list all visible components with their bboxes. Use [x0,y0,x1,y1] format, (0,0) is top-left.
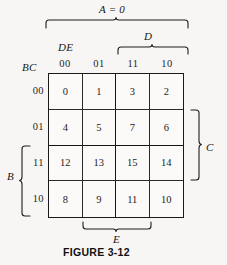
row-header-0: 00 [22,73,44,109]
label-de: DE [58,41,73,53]
kmap-cell: 3 [116,74,150,110]
kmap-cell-value: 7 [130,122,135,133]
kmap-cell-value: 5 [96,122,101,133]
kmap-cell: 6 [150,110,184,146]
kmap-cell: 1 [83,74,117,110]
kmap-grid: 0 1 3 2 4 5 7 6 12 13 15 14 8 9 11 10 [48,73,184,218]
kmap-cell-value: 14 [161,157,172,168]
kmap-cell-value: 15 [127,157,138,168]
kmap-cell-value: 9 [96,194,101,205]
column-header-0: 00 [48,58,82,69]
karnaugh-map-figure: A = 0 D DE BC 00 01 11 10 00 01 11 10 0 … [0,0,227,265]
label-d: D [144,30,152,42]
bracket-top-d [117,44,189,55]
figure-caption: FIGURE 3-12 [63,246,130,258]
kmap-cell: 4 [49,110,83,146]
kmap-cell: 11 [116,181,150,217]
kmap-cell-value: 8 [63,194,68,205]
kmap-cell: 5 [83,110,117,146]
bracket-top-a [45,17,189,29]
kmap-cell: 14 [150,146,184,182]
bracket-bottom-e [82,221,152,232]
kmap-cell: 9 [83,181,117,217]
kmap-cell-value: 11 [127,194,137,205]
label-e: E [113,233,120,245]
kmap-cell-value: 4 [63,122,68,133]
kmap-cell-value: 1 [96,86,101,97]
kmap-cell: 0 [49,74,83,110]
kmap-cell: 7 [116,110,150,146]
kmap-cell-value: 3 [130,86,135,97]
kmap-cell-value: 2 [164,86,169,97]
column-header-2: 11 [116,58,150,69]
kmap-cell-value: 13 [94,157,105,168]
bracket-left-b [19,145,31,217]
kmap-cell: 13 [83,146,117,182]
column-header-3: 10 [150,58,184,69]
kmap-cell-value: 0 [63,86,68,97]
kmap-cell: 8 [49,181,83,217]
kmap-cell: 2 [150,74,184,110]
kmap-cell: 10 [150,181,184,217]
label-bc: BC [22,61,36,73]
kmap-cell-value: 10 [161,194,172,205]
label-a-equals-0: A = 0 [99,3,125,15]
bracket-right-c [190,109,202,181]
label-c: C [206,141,214,153]
kmap-cell-value: 6 [164,122,169,133]
label-b: B [7,170,14,182]
kmap-cell-value: 12 [60,157,71,168]
column-header-1: 01 [82,58,116,69]
row-header-1: 01 [22,109,44,145]
kmap-cell: 15 [116,146,150,182]
kmap-cell: 12 [49,146,83,182]
